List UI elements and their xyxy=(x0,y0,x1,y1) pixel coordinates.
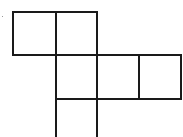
net-face-2 xyxy=(55,11,98,56)
net-face-5 xyxy=(138,54,182,100)
net-face-3 xyxy=(55,54,98,100)
net-face-6 xyxy=(55,98,98,137)
net-face-1 xyxy=(12,11,57,56)
stray-mark xyxy=(2,16,3,17)
net-face-4 xyxy=(96,54,140,100)
